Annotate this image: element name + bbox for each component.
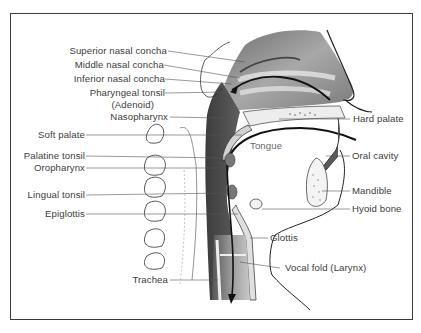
- label-lingual-tonsil: Lingual tonsil: [10, 189, 85, 200]
- label-palatine-tonsil: Palatine tonsil: [10, 150, 85, 161]
- label-hard-palate: Hard palate: [353, 113, 404, 124]
- hard-palate: [243, 106, 345, 126]
- label-hyoid-bone: Hyoid bone: [352, 203, 402, 214]
- label-tongue: Tongue: [250, 140, 282, 151]
- hyoid-bone: [250, 199, 262, 209]
- label-glottis: Glottis: [270, 232, 298, 243]
- label-vocal-fold: Vocal fold (Larynx): [285, 262, 366, 273]
- label-superior-nasal-concha: Superior nasal concha: [30, 45, 167, 56]
- label-epiglottis: Epiglottis: [10, 208, 85, 219]
- label-oral-cavity: Oral cavity: [352, 150, 398, 161]
- label-nasopharynx: Nasopharynx: [30, 111, 168, 122]
- label-oropharynx: Oropharynx: [10, 162, 85, 173]
- nasal-cavity: [218, 30, 353, 112]
- label-soft-palate: Soft palate: [10, 129, 85, 140]
- label-middle-nasal-concha: Middle nasal concha: [30, 59, 164, 70]
- spine-outline: [180, 127, 197, 280]
- label-trachea: Trachea: [100, 274, 168, 285]
- vertebrae: [144, 124, 165, 269]
- lips: [322, 118, 339, 170]
- palatine-tonsil: [225, 153, 235, 167]
- chin-neck-outline: [270, 150, 345, 310]
- label-pharyngeal-tonsil: Pharyngeal tonsil: [30, 87, 165, 98]
- label-mandible: Mandible: [352, 185, 392, 196]
- label-inferior-nasal-concha: Inferior nasal concha: [30, 73, 165, 84]
- label-adenoid: (Adenoid): [30, 99, 154, 110]
- spine-dotted-outline: [180, 170, 185, 285]
